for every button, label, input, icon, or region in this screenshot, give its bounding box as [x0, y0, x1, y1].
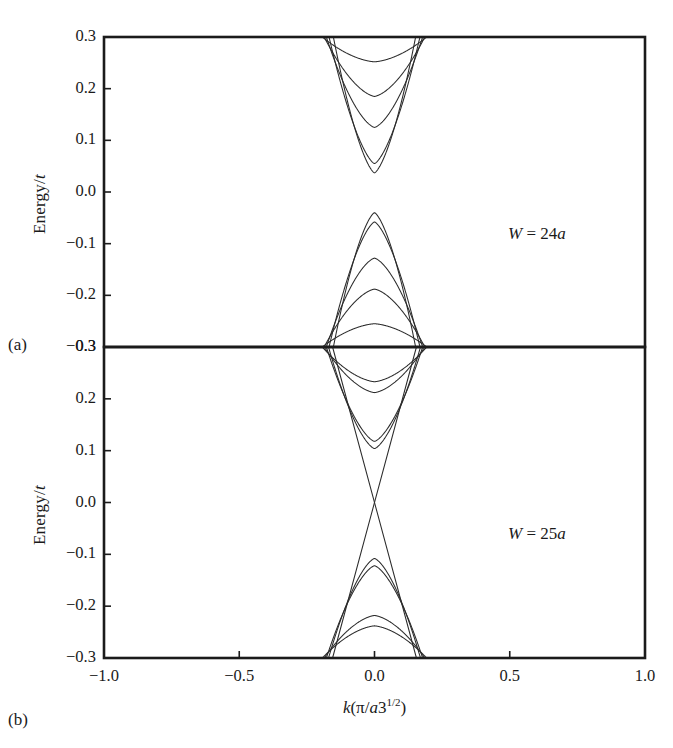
band-curve-c1	[333, 37, 415, 173]
panel-a-ytick-label: −0.2	[26, 284, 96, 304]
band-structure-figure: Energy/t (a) W = 24a Energy/t (b) W = 25…	[0, 0, 673, 748]
panel-a-ytick-label: 0.0	[26, 181, 96, 201]
plot-canvas	[0, 0, 673, 748]
panel-b-ytick-label: 0.2	[26, 388, 96, 408]
band-curve-c1	[329, 347, 421, 449]
band-curve-c2	[329, 37, 420, 164]
xtick-label: −1.0	[64, 666, 144, 686]
band-curve-v2	[326, 566, 422, 658]
panel-a-ytick-label: −0.1	[26, 233, 96, 253]
panel-a-ytick-label: 0.2	[26, 78, 96, 98]
band-curve-v1	[333, 213, 415, 347]
band-curve-c3	[324, 347, 425, 393]
panel-b-letter: (b)	[8, 710, 28, 730]
band-curve-v2	[329, 222, 420, 347]
panel-a-ytick-label: 0.1	[26, 129, 96, 149]
xtick-label: 1.0	[605, 666, 673, 686]
panel-b-ytick-label: 0.3	[26, 336, 96, 356]
panel-b-annotation: W = 25a	[508, 524, 566, 544]
panel-a-frame	[104, 37, 645, 347]
x-axis-label: k(π/a31/2)	[255, 696, 495, 718]
panel-a-bands	[322, 37, 426, 347]
panel-b-ytick-label: −0.3	[26, 647, 96, 667]
panel-b-ytick-label: −0.1	[26, 543, 96, 563]
band-curve-c2	[326, 347, 422, 441]
panel-b-ytick-label: −0.2	[26, 595, 96, 615]
panel-b-ytick-label: 0.1	[26, 440, 96, 460]
panel-a-letter: (a)	[8, 335, 27, 355]
xtick-label: −0.5	[199, 666, 279, 686]
panel-a-annotation: W = 24a	[508, 224, 566, 244]
band-curve-v1	[329, 558, 421, 658]
panel-b-bands	[322, 347, 426, 658]
xtick-label: 0.0	[335, 666, 415, 686]
panel-b-ytick-label: 0.0	[26, 492, 96, 512]
panel-a-ytick-label: 0.3	[26, 26, 96, 46]
xtick-label: 0.5	[470, 666, 550, 686]
axes-frames-layer	[104, 37, 645, 658]
